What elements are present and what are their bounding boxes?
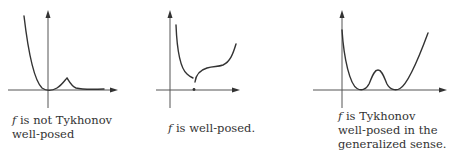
panel-well-posed bbox=[156, 10, 240, 108]
caption-generalized-well-posed: f is Tykhonov well-posed in the generali… bbox=[338, 109, 446, 151]
caption-line-1: is not Tykhonov bbox=[16, 113, 112, 127]
caption-line-1: is Tykhonov bbox=[342, 109, 415, 123]
function-curve-left-branch bbox=[176, 25, 193, 78]
caption-line-2: well-posed in the bbox=[338, 123, 446, 137]
caption-line-1: is well-posed. bbox=[172, 121, 255, 135]
x-axis-arrow-icon bbox=[439, 88, 447, 93]
y-axis-arrow-icon bbox=[46, 10, 51, 18]
function-curve bbox=[342, 30, 428, 90]
panel-generalized-well-posed bbox=[313, 10, 447, 108]
isolated-minimum-point bbox=[193, 88, 196, 91]
x-axis-arrow-icon bbox=[232, 88, 240, 93]
y-axis-arrow-icon bbox=[168, 10, 173, 18]
function-curve bbox=[24, 16, 104, 90]
x-axis-arrow-icon bbox=[110, 88, 118, 93]
caption-line-2: well-posed bbox=[12, 127, 112, 141]
y-axis-arrow-icon bbox=[340, 10, 345, 18]
caption-not-well-posed: f is not Tykhonov well-posed bbox=[12, 113, 112, 141]
caption-line-3: generalized sense. bbox=[338, 137, 446, 151]
caption-well-posed: f is well-posed. bbox=[168, 121, 255, 135]
function-curve-right-branch bbox=[195, 44, 236, 82]
panel-not-well-posed bbox=[8, 10, 118, 108]
